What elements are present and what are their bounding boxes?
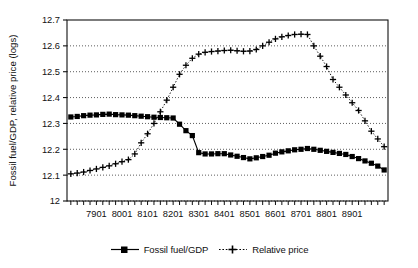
x-tick-label: 8201 — [163, 209, 184, 219]
x-tick-label: 8301 — [188, 209, 209, 219]
legend-marker-plus-icon — [218, 244, 248, 255]
y-axis-title: Fossil fuel/GDP, relative price (logs) — [7, 35, 18, 187]
y-tick-label: 12.5 — [42, 67, 60, 77]
y-tick-label: 12.4 — [42, 93, 60, 103]
chart-figure: 1212.112.212.312.412.512.612.77901800181… — [0, 0, 418, 268]
y-tick-label: 12.3 — [42, 119, 60, 129]
legend-marker-square-icon — [110, 244, 140, 255]
chart-legend: Fossil fuel/GDP Relative price — [0, 238, 418, 260]
chart-plot-container: 1212.112.212.312.412.512.612.77901800181… — [0, 0, 418, 228]
x-tick-label: 8801 — [316, 209, 337, 219]
legend-item-relative-price: Relative price — [218, 244, 308, 255]
x-tick-label: 8401 — [214, 209, 235, 219]
y-tick-label: 12.1 — [42, 171, 60, 181]
line-chart: 1212.112.212.312.412.512.612.77901800181… — [0, 0, 418, 228]
y-tick-label: 12 — [50, 196, 60, 206]
series-line-fossil-fuel-gdp — [71, 114, 384, 170]
y-tick-label: 12.6 — [42, 41, 60, 51]
y-tick-label: 12.2 — [42, 145, 60, 155]
x-tick-label: 8001 — [112, 209, 133, 219]
x-tick-label: 8601 — [265, 209, 286, 219]
legend-label-relative-price: Relative price — [252, 244, 308, 255]
x-tick-label: 8101 — [137, 209, 158, 219]
x-tick-label: 7901 — [86, 209, 107, 219]
legend-label-fossil-fuel-gdp: Fossil fuel/GDP — [144, 244, 209, 255]
y-tick-label: 12.7 — [42, 15, 60, 25]
x-tick-label: 8501 — [240, 209, 261, 219]
x-tick-label: 8901 — [342, 209, 363, 219]
x-tick-label: 8701 — [291, 209, 312, 219]
legend-item-fossil-fuel-gdp: Fossil fuel/GDP — [110, 244, 209, 255]
